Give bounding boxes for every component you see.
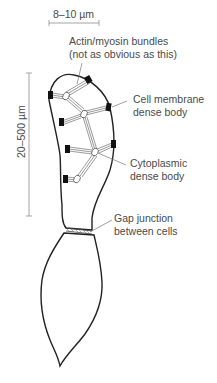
length-scale-label: 20–500 µm [15, 105, 27, 158]
lower-cell-outline [41, 233, 102, 366]
membrane-leader [112, 101, 127, 107]
membrane-label-line2: dense body [133, 106, 188, 118]
cytoplasmic-label-line1: Cytoplasmic [130, 157, 187, 169]
label-membrane-dense-body: Cell membrane dense body [133, 93, 204, 118]
width-scale-bar: 8–10 µm [49, 8, 99, 26]
actin-label-line2: (not as obvious as this) [69, 48, 177, 60]
width-scale-label: 8–10 µm [53, 8, 94, 20]
actin-label-line1: Actin/myosin bundles [69, 35, 168, 47]
length-scale-bar: 20–500 µm [15, 73, 32, 216]
cytoplasmic-dense-bodies [61, 91, 99, 184]
gap-leader [90, 220, 112, 232]
smooth-muscle-diagram: 8–10 µm 20–500 µm [0, 0, 217, 383]
membrane-dense-bodies [48, 75, 116, 183]
gap-label-line1: Gap junction [114, 212, 173, 224]
actin-leader [77, 63, 82, 84]
gap-label-line2: between cells [114, 225, 178, 237]
membrane-label-line1: Cell membrane [133, 93, 204, 105]
cytoplasmic-label-line2: dense body [130, 170, 185, 182]
label-cytoplasmic-dense-body: Cytoplasmic dense body [130, 157, 187, 182]
label-actin-myosin: Actin/myosin bundles (not as obvious as … [69, 35, 177, 60]
label-gap-junction: Gap junction between cells [114, 212, 178, 237]
